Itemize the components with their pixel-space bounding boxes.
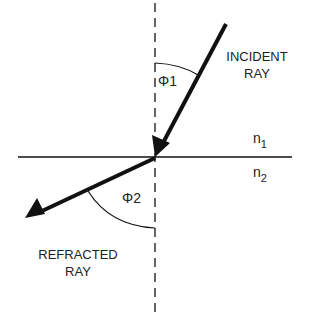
refracted-ray-label: REFRACTED RAY	[28, 246, 128, 280]
n2-label: n2	[253, 164, 267, 180]
n2-sub: 2	[261, 172, 267, 184]
incident-ray-label: INCIDENT RAY	[222, 48, 292, 82]
n1-base: n	[253, 130, 261, 146]
refracted-line1: REFRACTED	[28, 246, 128, 263]
refracted-arrowhead-icon	[25, 198, 45, 218]
n1-sub: 1	[261, 138, 267, 150]
n1-label: n1	[253, 130, 267, 146]
phi2-label: Φ2	[122, 190, 141, 206]
n2-base: n	[253, 164, 261, 180]
incident-line2: RAY	[222, 65, 292, 82]
incident-line1: INCIDENT	[222, 48, 292, 65]
refracted-line2: RAY	[28, 263, 128, 280]
phi1-label: Φ1	[158, 73, 177, 89]
